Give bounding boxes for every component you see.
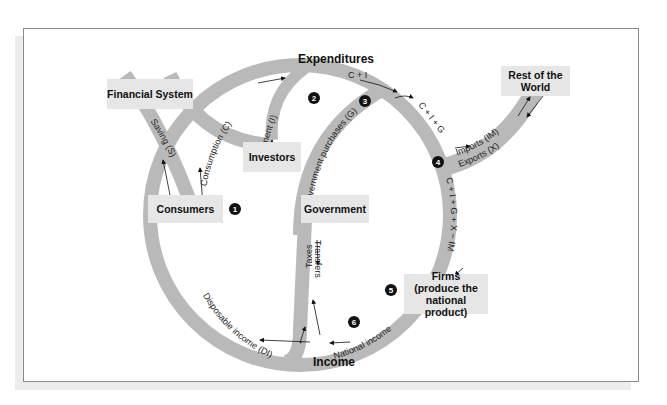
consumers-node: Consumers bbox=[148, 195, 223, 223]
marker-3: 3 bbox=[359, 95, 371, 107]
rest-of-world-node: Rest of the World bbox=[501, 66, 570, 96]
marker-1: 1 bbox=[229, 203, 241, 215]
taxes-label: Taxes bbox=[304, 244, 314, 268]
c-plus-i-label: C + I bbox=[348, 70, 367, 80]
marker-2: 2 bbox=[308, 92, 320, 104]
firms-node: Firms (produce the national product) bbox=[404, 274, 488, 314]
svg-text:3: 3 bbox=[363, 97, 368, 106]
marker-6: 6 bbox=[348, 316, 360, 328]
financial-system-node: Financial System bbox=[107, 79, 193, 109]
marker-4: 4 bbox=[432, 156, 444, 168]
svg-text:2: 2 bbox=[312, 94, 317, 103]
circular-flow-diagram: Consumption (C) Saving (S) Investment (I… bbox=[0, 0, 667, 405]
income-title: Income bbox=[313, 355, 355, 369]
marker-5: 5 bbox=[385, 284, 397, 296]
svg-text:6: 6 bbox=[352, 318, 357, 327]
svg-text:1: 1 bbox=[233, 205, 238, 214]
taxes-transfers-band bbox=[285, 220, 305, 362]
svg-text:5: 5 bbox=[389, 286, 394, 295]
investors-node: Investors bbox=[243, 142, 301, 172]
svg-text:4: 4 bbox=[436, 158, 441, 167]
transfers-label: Transfers bbox=[313, 240, 323, 278]
expenditures-title: Expenditures bbox=[298, 52, 374, 66]
government-node: Government bbox=[301, 195, 369, 223]
investment-band bbox=[272, 68, 305, 140]
